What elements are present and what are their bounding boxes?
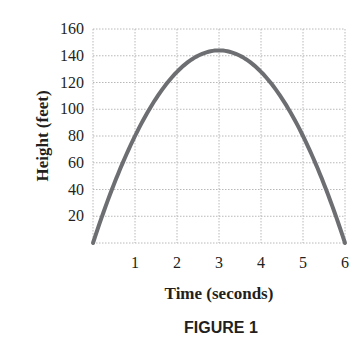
x-tick-label: 1 [131, 254, 139, 271]
y-tick-label: 80 [68, 127, 84, 144]
y-tick-label: 100 [60, 100, 84, 117]
y-tick-label: 40 [68, 181, 84, 198]
x-tick-label: 6 [341, 254, 349, 271]
x-tick-label: 4 [257, 254, 265, 271]
x-tick-label: 5 [299, 254, 307, 271]
x-tick-label: 3 [215, 254, 223, 271]
grid [93, 29, 345, 243]
y-tick-label: 60 [68, 154, 84, 171]
y-tick-label: 20 [68, 207, 84, 224]
chart: 20406080100120140160 123456 Height (feet… [0, 0, 362, 344]
x-axis-ticks: 123456 [131, 254, 349, 271]
y-tick-label: 160 [60, 20, 84, 37]
y-axis-ticks: 20406080100120140160 [60, 20, 84, 224]
x-tick-label: 2 [173, 254, 181, 271]
y-axis-label: Height (feet) [33, 90, 52, 181]
x-axis-label: Time (seconds) [165, 284, 274, 303]
y-tick-label: 140 [60, 47, 84, 64]
y-tick-label: 120 [60, 74, 84, 91]
figure-caption: FIGURE 1 [184, 319, 258, 336]
